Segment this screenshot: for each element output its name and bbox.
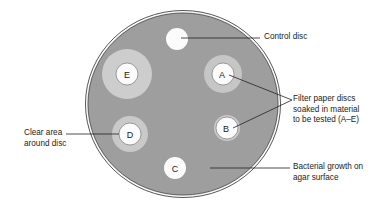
filter-paper-text-line1: Filter paper discs (293, 94, 359, 105)
filter-paper-text-line2: soaked in material (293, 105, 359, 116)
control-disc-label: Control disc (264, 32, 307, 43)
diagram-canvas: E A B C D Control disc Filter paper disc… (0, 0, 381, 205)
clear-area-text-line2: around disc (24, 139, 66, 150)
disc-d-label: D (127, 130, 134, 140)
disc-b-label: B (223, 124, 229, 134)
bacterial-growth-text-line1: Bacterial growth on (293, 162, 363, 173)
filter-paper-label: Filter paper discs soaked in material to… (293, 94, 359, 126)
control-disc-text: Control disc (264, 32, 307, 41)
disc-e-label: E (124, 70, 130, 80)
bacterial-growth-text-line2: agar surface (293, 173, 363, 184)
disc-a-label: A (219, 70, 225, 80)
control-disc (166, 28, 188, 50)
clear-area-text-line1: Clear area (24, 128, 66, 139)
disc-c-label: C (172, 164, 179, 174)
filter-paper-text-line3: to be tested (A–E) (293, 115, 359, 126)
bacterial-growth-label: Bacterial growth on agar surface (293, 162, 363, 183)
clear-area-label: Clear area around disc (24, 128, 66, 149)
